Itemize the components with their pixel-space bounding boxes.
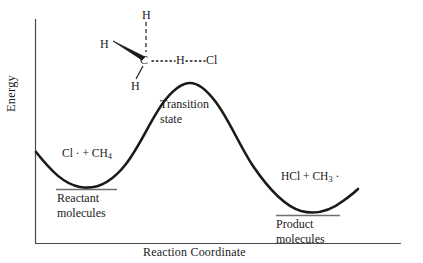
reactant-formula-main: Cl · + CH: [62, 147, 108, 159]
atom-label-chlorine: Cl: [206, 53, 217, 68]
energy-profile-figure: Energy Reaction Coordinate Cl · + CH4 HC…: [0, 0, 423, 263]
reactant-level-label: Reactant molecules: [57, 191, 106, 221]
y-axis-title: Energy: [4, 75, 18, 112]
product-level-label: Product molecules: [276, 217, 325, 247]
product-formula-main: HCl + CH: [281, 170, 328, 182]
atom-label-hydrogen-bottom: H: [131, 79, 140, 94]
product-species-label: HCl + CH3 ·: [281, 170, 339, 185]
reactant-formula-subscript: 4: [108, 152, 112, 161]
atom-label-hydrogen-top: H: [142, 8, 151, 23]
reactant-species-label: Cl · + CH4: [62, 147, 112, 162]
product-radical-dot: ·: [333, 170, 340, 182]
atom-label-hydrogen-bridging: H: [176, 53, 185, 68]
atom-label-hydrogen-left: H: [100, 37, 109, 52]
x-axis-title: Reaction Coordinate: [143, 246, 246, 259]
transition-state-label: Transition state: [160, 97, 209, 127]
atom-label-carbon: C: [140, 53, 148, 68]
figure-canvas: [0, 0, 423, 263]
